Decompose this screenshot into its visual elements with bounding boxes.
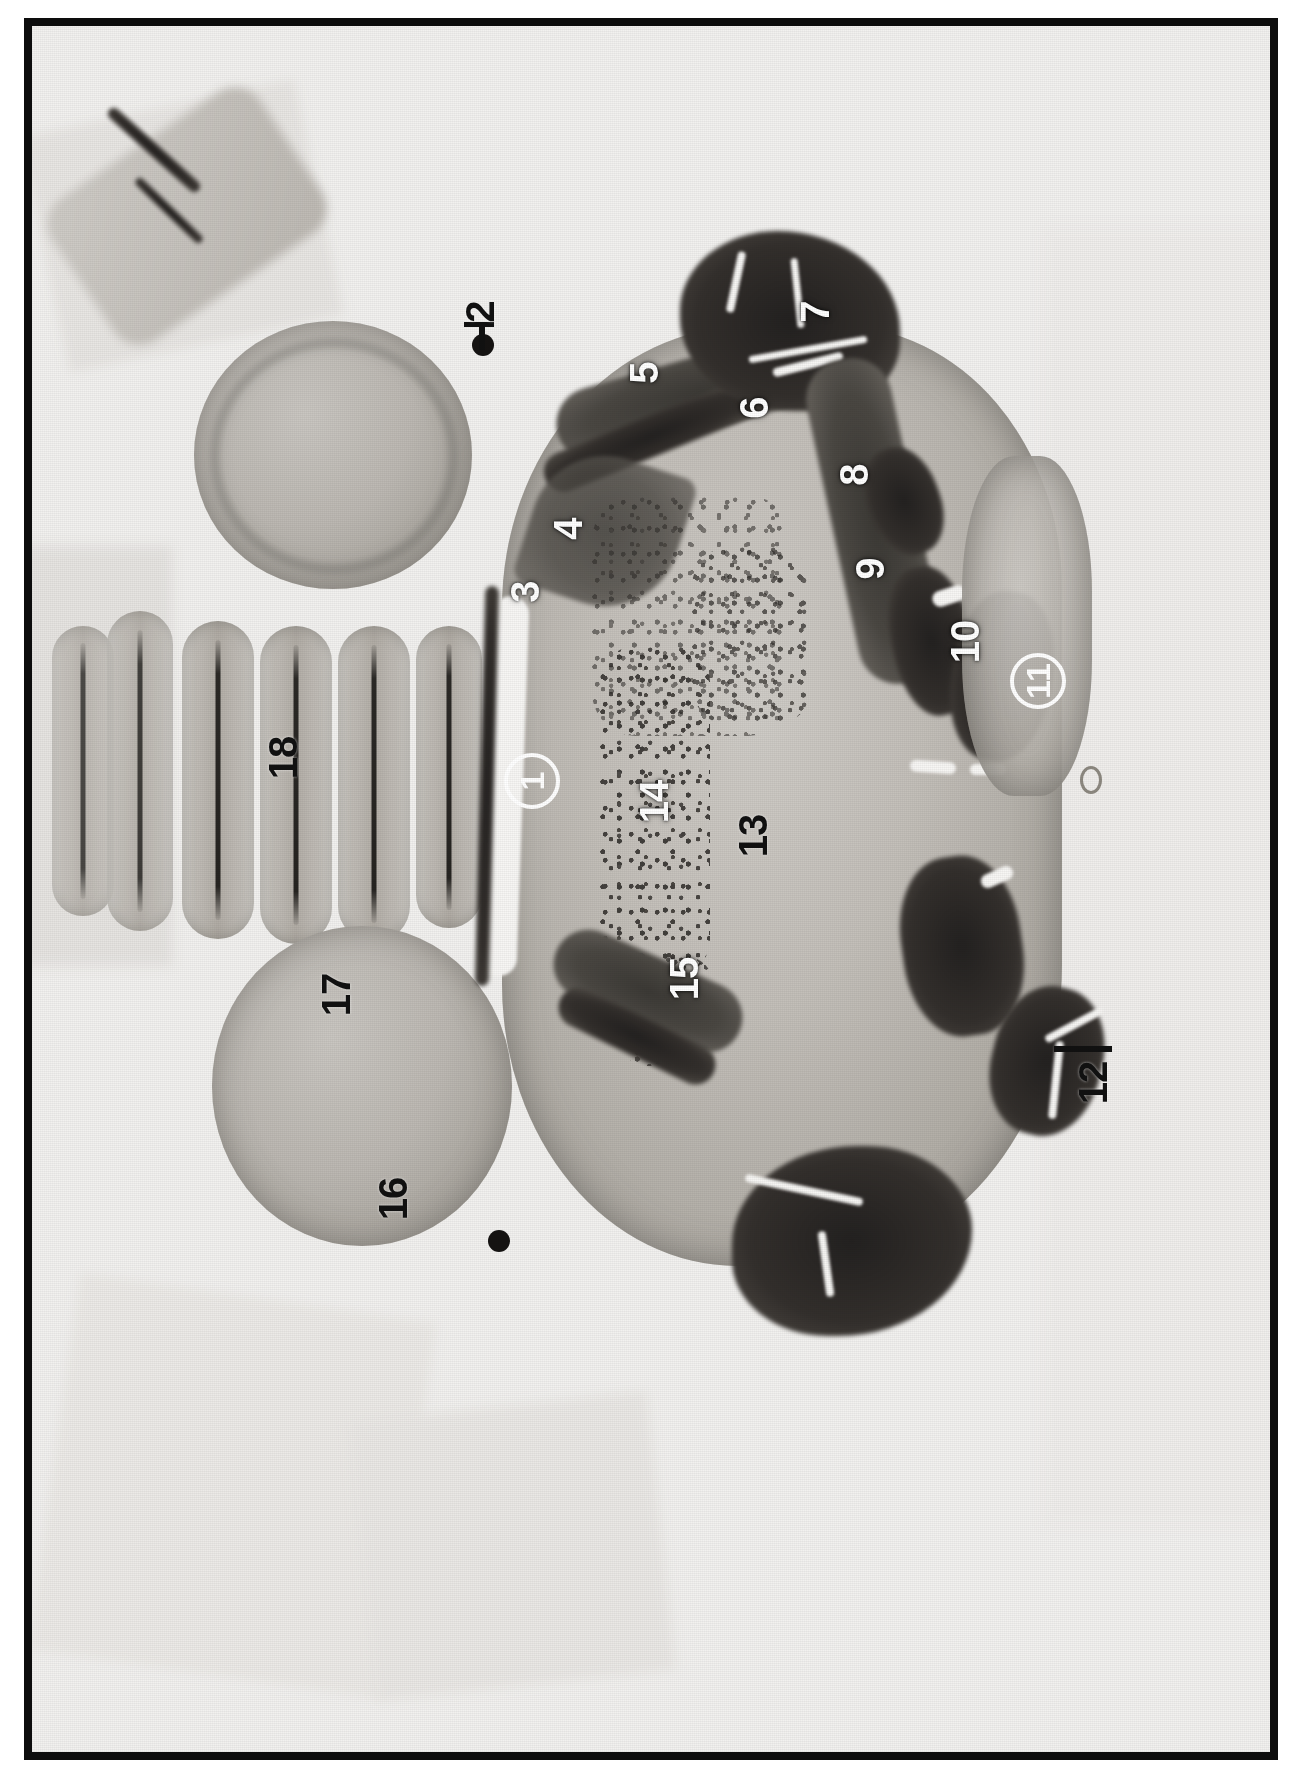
label-18: 18 [263,737,303,780]
slide-field-bottom [348,1391,676,1701]
label-1-left: 1 [504,753,560,809]
lobe-upper-rim [210,338,458,574]
vessel-profile-right [1080,766,1102,794]
label-13-text: 13 [731,815,775,858]
label-9-text: 9 [848,558,892,579]
label-5-text: 5 [622,362,666,383]
folium-4 [416,626,482,928]
plate-border: 1 2 3 4 5 6 7 8 [24,18,1278,1760]
leader-line-2-stub [464,322,494,327]
label-17: 17 [316,974,356,1017]
label-18-text: 18 [261,737,305,780]
folium-partial-left-a [52,626,114,916]
label-11-text: 11 [1021,663,1055,699]
label-6: 6 [734,397,774,418]
label-12-text: 12 [1071,1062,1115,1105]
label-8-text: 8 [832,464,876,485]
cortical-lobe-lower [212,926,512,1246]
label-8: 8 [834,464,874,485]
label-10-text: 10 [943,621,987,664]
folium-partial-left-b [107,611,173,931]
label-4-text: 4 [546,518,590,539]
label-14-text: 14 [632,781,676,824]
folium-3 [338,626,410,942]
cerebellar-lobule-lower [732,1146,972,1336]
label-17-text: 17 [314,974,358,1017]
label-15: 15 [664,958,704,1001]
leader-line-12 [1054,1046,1112,1052]
leader-line-2 [479,326,485,350]
label-2-text: 2 [458,301,502,322]
label-9: 9 [850,558,890,579]
label-4: 4 [548,518,588,539]
label-16-text: 16 [371,1178,415,1221]
stippled-field-central [592,496,792,736]
label-15-text: 15 [662,958,706,1001]
label-7-text: 7 [793,301,837,322]
label-14: 14 [634,781,674,824]
slide-field-right [1042,226,1270,1526]
label-3-text: 3 [503,581,547,602]
label-1-left-text: 1 [515,772,549,791]
label-5: 5 [624,362,664,383]
label-3: 3 [505,581,545,602]
figure-page: 1 2 3 4 5 6 7 8 [0,0,1306,1777]
label-2: 2 [460,301,500,322]
micrograph-canvas: 1 2 3 4 5 6 7 8 [32,26,1270,1752]
label-7: 7 [795,301,835,322]
label-16: 16 [373,1178,413,1221]
label-12: 12 [1073,1062,1113,1105]
label-13: 13 [733,815,773,858]
label-10: 10 [945,621,985,664]
folium-2 [260,626,332,944]
label-6-text: 6 [732,397,776,418]
lesion-dot-lower [488,1230,510,1252]
label-11-circled: 11 [1010,653,1066,709]
folium-1 [182,621,254,939]
